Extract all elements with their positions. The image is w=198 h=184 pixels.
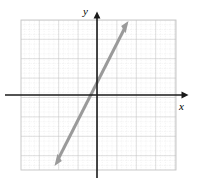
graph-figure: y x [0, 0, 198, 184]
y-axis-label: y [83, 6, 88, 17]
coordinate-plane-svg [0, 0, 198, 184]
x-axis-label: x [179, 101, 184, 112]
